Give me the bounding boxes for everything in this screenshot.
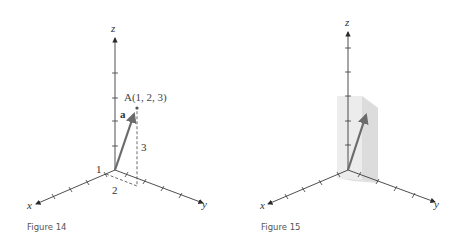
vector-label: a — [120, 108, 126, 120]
point-a — [135, 106, 138, 109]
z-axis-label: z — [110, 22, 116, 34]
figure-15-caption: Figure 15 — [261, 222, 300, 232]
y-ticks — [125, 172, 182, 198]
x-axis-label: x — [26, 199, 32, 211]
x-axis — [36, 170, 115, 204]
point-label: A(1, 2, 3) — [124, 91, 167, 104]
z-axis-label: z — [344, 16, 350, 28]
figure-15: z x y — [259, 16, 439, 211]
figure-14: z x y A(1, 2, 3) a 1 2 3 — [26, 22, 207, 211]
x-axis — [268, 170, 348, 204]
component-x-label: 1 — [96, 163, 102, 175]
vector-a — [115, 114, 134, 170]
figures-canvas: z x y A(1, 2, 3) a 1 2 3 — [0, 0, 457, 247]
component-y-label: 2 — [112, 184, 118, 196]
y-axis-label: y — [433, 198, 439, 210]
y-axis — [348, 170, 435, 202]
x-axis-label: x — [259, 199, 265, 211]
y-axis-label: y — [201, 198, 207, 210]
figure-14-caption: Figure 14 — [27, 222, 66, 232]
component-z-label: 3 — [141, 141, 147, 153]
y-axis — [115, 170, 203, 203]
